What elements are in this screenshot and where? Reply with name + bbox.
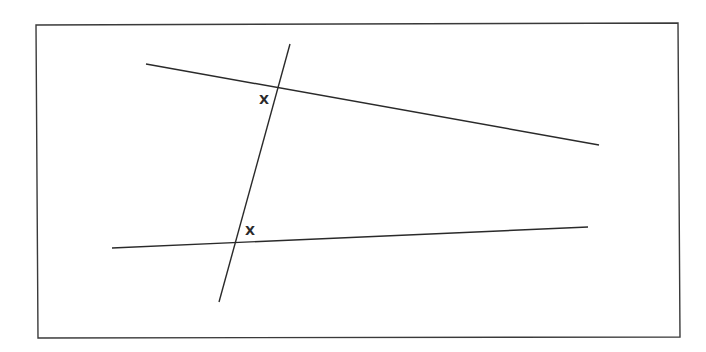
diagram-canvas: X X — [0, 0, 706, 352]
lower-angle-label: X — [245, 223, 255, 238]
diagram-frame — [36, 23, 680, 338]
upper-line — [146, 64, 599, 145]
upper-angle-label: X — [259, 92, 269, 107]
lower-line — [112, 227, 588, 248]
